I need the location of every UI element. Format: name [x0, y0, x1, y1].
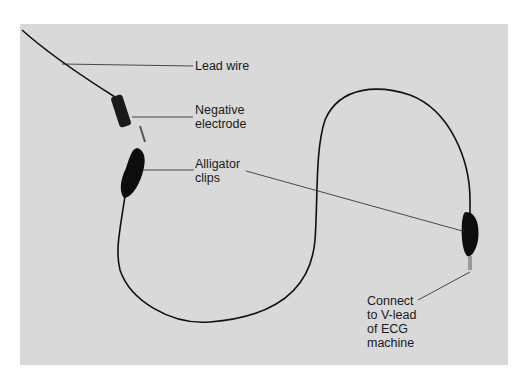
label-connect-v-lead: Connectto V-leadof ECGmachine — [367, 294, 416, 350]
alligator-clip-left — [121, 148, 145, 198]
label-negative-electrode: Negativeelectrode — [195, 103, 246, 131]
negative-electrode — [110, 94, 131, 128]
wire-illustration — [0, 0, 528, 385]
label-alligator-clips: Alligatorclips — [195, 157, 240, 185]
alligator-clip-right — [462, 212, 479, 256]
label-lead-wire: Lead wire — [195, 59, 249, 73]
